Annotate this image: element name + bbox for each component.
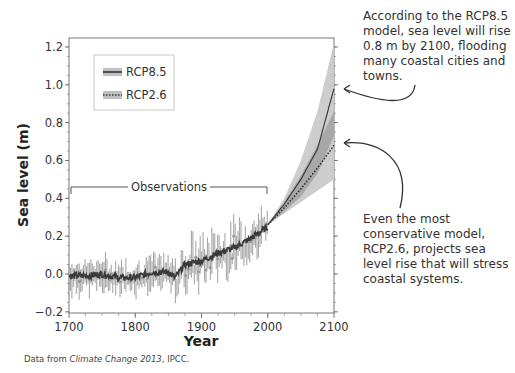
source-title: Climate Change 2013 [69, 354, 161, 364]
x-axis: 17001800190020002100 [54, 313, 348, 334]
legend-label-rcp26: RCP2.6 [126, 88, 167, 102]
rcp85-annotation: According to the RCP8.5 model, sea level… [363, 9, 513, 84]
rcp26-annotation: Even the most conservative model, RCP2.6… [363, 212, 513, 287]
observations-bracket: Observations [71, 180, 267, 194]
source-suffix: , IPCC. [162, 354, 190, 364]
y-tick-label: 1.2 [45, 40, 63, 54]
projection-bands [268, 43, 334, 225]
y-tick-label: −0.2 [35, 305, 63, 319]
source-prefix: Data from [24, 354, 69, 364]
y-tick-label: 0.6 [45, 153, 63, 167]
legend-label-rcp85: RCP8.5 [126, 65, 167, 79]
x-tick-label: 1800 [121, 320, 150, 334]
y-axis-title: Sea level (m) [15, 123, 31, 227]
y-tick-label: 1.0 [45, 78, 63, 92]
x-axis-title: Year [183, 333, 219, 349]
y-tick-label: 0.4 [45, 191, 63, 205]
y-tick-label: 0.2 [45, 229, 63, 243]
legend: RCP8.5 RCP2.6 [94, 55, 174, 110]
x-tick-label: 1900 [187, 320, 216, 334]
y-tick-label: 0.8 [45, 116, 63, 130]
y-tick-label: 0.0 [45, 267, 63, 281]
arrow-rcp85 [344, 85, 415, 101]
x-tick-label: 2000 [253, 320, 282, 334]
observations-label: Observations [131, 180, 207, 194]
arrow-rcp26 [344, 143, 403, 208]
x-tick-label: 2100 [319, 320, 348, 334]
source-citation: Data from Climate Change 2013, IPCC. [24, 354, 189, 364]
observation-error-bars [69, 206, 267, 303]
x-tick-label: 1700 [54, 320, 83, 334]
